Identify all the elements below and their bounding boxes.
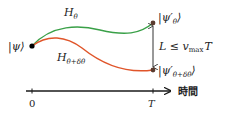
upper-end-point: [151, 21, 156, 26]
start-point: [29, 43, 34, 48]
tick-label-T: T: [148, 98, 156, 109]
state-evolution-diagram: |ψ⟩ Hθ Hθ+δθ |ψ′θ⟩ |ψ′θ+δθ⟩ L ≤ vmaxT 0 …: [0, 0, 225, 124]
lower-end-point: [151, 68, 156, 73]
upper-hamiltonian-label: Hθ: [63, 6, 79, 21]
lower-end-state-label: |ψ′θ+δθ⟩: [158, 64, 196, 79]
tick-label-zero: 0: [29, 98, 35, 109]
time-axis-label: 時間: [178, 85, 198, 97]
distance-bound-label: L ≤ vmaxT: [158, 40, 214, 54]
lower-hamiltonian-label: Hθ+δθ: [56, 51, 86, 66]
upper-end-state-label: |ψ′θ⟩: [158, 11, 181, 26]
upper-evolution-path: [32, 23, 153, 46]
start-state-label: |ψ⟩: [8, 40, 25, 54]
lower-evolution-path: [32, 38, 153, 71]
